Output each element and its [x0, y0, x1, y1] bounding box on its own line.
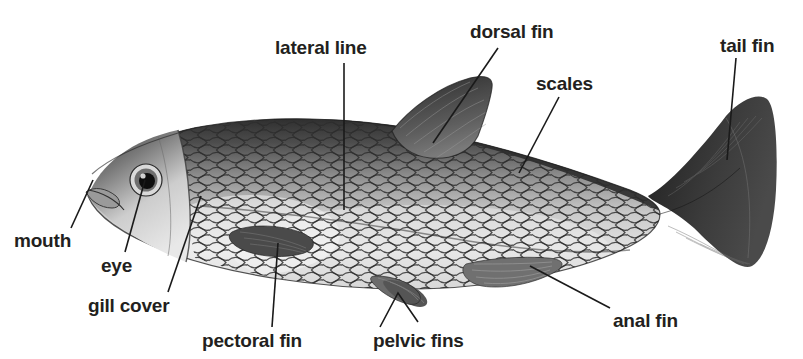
fish-anatomy-figure: lateral line dorsal fin scales tail fin …: [0, 0, 803, 359]
leader-anal-fin: [530, 266, 610, 308]
label-lateral-line: lateral line: [275, 38, 367, 57]
tail-fin-shape: [648, 97, 777, 267]
label-dorsal-fin: dorsal fin: [470, 22, 554, 41]
label-scales: scales: [536, 74, 593, 93]
label-anal-fin: anal fin: [613, 311, 678, 330]
eye-shape: [130, 164, 162, 196]
label-mouth: mouth: [14, 231, 71, 250]
label-eye: eye: [101, 256, 132, 275]
label-pelvic-fins: pelvic fins: [373, 331, 464, 350]
anal-fin-shape: [463, 257, 562, 287]
leader-mouth: [71, 180, 93, 228]
label-gill-cover: gill cover: [88, 296, 169, 315]
label-pectoral-fin: pectoral fin: [202, 331, 302, 350]
fish-head: [86, 130, 190, 262]
label-tail-fin: tail fin: [720, 36, 774, 55]
